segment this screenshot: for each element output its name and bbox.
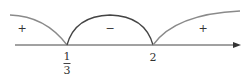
fraction-denominator: 3: [64, 64, 71, 77]
fraction-numerator: 1: [64, 50, 71, 63]
arrow-head-icon: [233, 42, 241, 48]
sign-minus-middle: −: [105, 22, 114, 35]
sign-plus-right: +: [198, 22, 207, 35]
sign-plus-left: +: [17, 22, 26, 35]
right-arc: [153, 11, 240, 45]
critical-point-two: 2: [150, 51, 157, 64]
critical-point-one-third: 1 3: [64, 51, 71, 76]
sign-chart: [0, 0, 250, 82]
